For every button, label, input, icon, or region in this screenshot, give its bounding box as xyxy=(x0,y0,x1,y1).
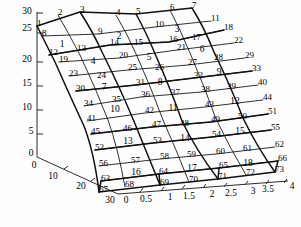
element-label: 7 xyxy=(102,82,107,92)
node-label: 63 xyxy=(101,173,111,183)
horizontal-tick-label: 1 xyxy=(168,192,173,202)
element-label: 17 xyxy=(187,163,197,173)
node-label: 37 xyxy=(171,87,181,97)
node-label: 34 xyxy=(84,98,94,108)
vertical-tick-label: 25 xyxy=(22,23,32,33)
node-label: 42 xyxy=(145,105,154,115)
element-label: 8 xyxy=(158,77,163,87)
node-label: 73 xyxy=(275,164,285,174)
element-label: 18 xyxy=(243,158,253,168)
node-label: 39 xyxy=(227,81,237,91)
element-label: 6 xyxy=(200,44,205,54)
node-label: 41 xyxy=(87,113,96,123)
element-label: 16 xyxy=(131,167,141,177)
node-label: 46 xyxy=(123,123,133,133)
node-label: 18 xyxy=(224,22,234,32)
node-label: 38 xyxy=(201,84,211,94)
node-label: 51 xyxy=(268,106,277,116)
node-label: 7 xyxy=(192,0,197,10)
horizontal-tick-label: 2 xyxy=(210,189,215,199)
element-label: 2 xyxy=(117,31,122,41)
node-label: 44 xyxy=(263,92,273,102)
node-label: 57 xyxy=(131,155,141,165)
node-label: 32 xyxy=(194,70,203,80)
node-label: 26 xyxy=(155,62,165,72)
node-label: 68 xyxy=(125,179,135,189)
node-label: 4 xyxy=(116,7,121,17)
vertical-tick-label: 15 xyxy=(22,78,32,88)
node-label: 58 xyxy=(160,151,170,161)
horizontal-tick-label: 4 xyxy=(290,181,295,191)
element-label: 13 xyxy=(123,136,133,146)
depth-axis-ticks xyxy=(64,166,95,181)
node-label: 10 xyxy=(155,19,165,29)
node-label: 1 xyxy=(37,18,42,28)
node-label: 62 xyxy=(275,139,284,149)
node-label: 49 xyxy=(211,114,221,124)
node-label: 17 xyxy=(192,32,202,42)
horizontal-tick-label: 0 xyxy=(124,195,129,205)
vertical-tick-label: 10 xyxy=(22,102,32,112)
node-label: 12 xyxy=(49,47,58,57)
mesh-plot-svg: 1234567891011121314151617181920212223242… xyxy=(0,0,301,227)
node-label: 47 xyxy=(152,119,162,129)
node-label: 72 xyxy=(246,167,255,177)
node-label: 61 xyxy=(243,143,252,153)
node-label: 23 xyxy=(69,68,79,78)
horizontal-tick-label: 3.5 xyxy=(262,184,274,194)
element-label: 12 xyxy=(230,96,240,106)
node-label: 19 xyxy=(59,54,69,64)
horizontal-tick-label: 1.5 xyxy=(183,191,195,201)
node-label: 52 xyxy=(95,142,104,152)
depth-tick-label: 20 xyxy=(76,181,86,191)
node-label: 55 xyxy=(271,122,281,132)
node-label: 22 xyxy=(234,35,243,45)
node-label: 20 xyxy=(119,50,129,60)
element-label: 4 xyxy=(91,56,96,66)
vertical-tick-label: 5 xyxy=(29,126,34,136)
element-label: 15 xyxy=(235,126,245,136)
node-label: 36 xyxy=(141,89,151,99)
node-label: 54 xyxy=(212,129,222,139)
vertical-tick-label: 0 xyxy=(29,148,34,158)
node-label: 45 xyxy=(91,126,101,136)
node-label: 40 xyxy=(258,77,268,87)
element-label: 10 xyxy=(110,104,120,114)
figure-canvas: 1234567891011121314151617181920212223242… xyxy=(0,0,301,227)
element-label: 3 xyxy=(175,24,180,34)
node-label: 50 xyxy=(238,111,248,121)
node-label: 30 xyxy=(76,83,86,93)
node-label: 6 xyxy=(170,2,175,12)
node-label: 71 xyxy=(218,171,227,181)
node-label: 53 xyxy=(153,135,163,145)
element-label: 11 xyxy=(168,103,177,113)
node-label: 8 xyxy=(42,28,47,38)
node-label: 3 xyxy=(80,4,85,14)
node-label: 24 xyxy=(97,70,107,80)
vertical-tick-label: 30 xyxy=(22,6,32,16)
node-label: 29 xyxy=(245,50,255,60)
depth-tick-label: 0 xyxy=(32,160,37,170)
element-label: 1 xyxy=(60,39,65,49)
node-label: 13 xyxy=(77,43,87,53)
node-label: 65 xyxy=(219,160,229,170)
node-label: 67 xyxy=(99,184,109,194)
horizontal-tick-label: 3 xyxy=(251,186,256,196)
horizontal-tick-label: 0.5 xyxy=(140,194,152,204)
node-label: 28 xyxy=(214,52,224,62)
node-label: 56 xyxy=(99,158,109,168)
node-label: 21 xyxy=(177,42,186,52)
depth-tick-label: 10 xyxy=(48,171,58,181)
node-label: 27 xyxy=(188,57,198,67)
node-label: 25 xyxy=(128,62,138,72)
element-label: 5 xyxy=(147,52,152,62)
node-label: 64 xyxy=(159,166,169,176)
node-label: 11 xyxy=(211,13,220,23)
depth-tick-label: 30 xyxy=(105,195,115,205)
node-label: 69 xyxy=(160,177,170,187)
element-label: 14 xyxy=(180,133,190,143)
node-label: 59 xyxy=(187,149,197,159)
node-label: 2 xyxy=(58,7,63,17)
node-label: 66 xyxy=(278,153,288,163)
node-label: 31 xyxy=(136,77,145,87)
